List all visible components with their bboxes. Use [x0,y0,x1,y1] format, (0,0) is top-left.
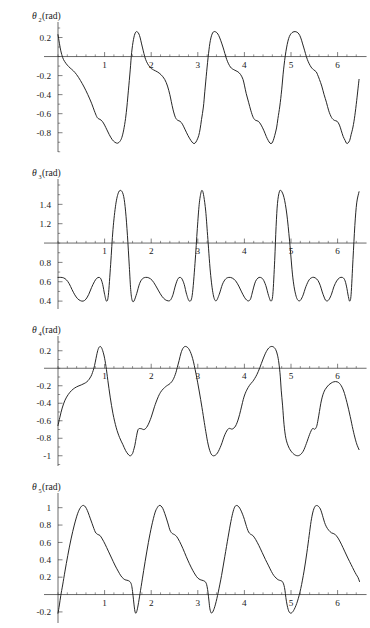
plot-panel-theta5: 123456time(s)10.80.60.40.2-0.2θ5(rad) [0,471,370,628]
y-tick-label: 0.4 [40,555,52,565]
x-tick-label: 6 [335,371,340,381]
y-axis-title-unit: (rad) [42,167,61,179]
x-tick-label: 1 [102,598,107,608]
y-tick-label: -0.6 [36,109,51,119]
x-tick-label: 5 [289,598,294,608]
y-tick-label: -0.2 [36,607,51,617]
y-tick-label: 0.2 [40,572,52,582]
plot-panel-theta4: 123456time(s)0.2-0.2-0.4-0.6-0.8-1θ4(rad… [0,314,370,471]
x-tick-label: 1 [102,246,107,256]
x-tick-label: 5 [289,60,294,70]
x-tick-label: 6 [335,598,340,608]
y-tick-label: 1.4 [40,200,52,210]
y-tick-label: 0.8 [40,258,52,268]
y-tick-label: -0.2 [36,381,51,391]
y-tick-label: -0.6 [36,416,51,426]
x-tick-label: 2 [149,598,154,608]
y-tick-label: -0.8 [36,433,51,443]
y-tick-label: -0.4 [36,90,51,100]
y-tick-label: 0.4 [40,296,52,306]
y-axis-title: θ2(rad) [32,10,61,23]
y-axis-title-symbol: θ [32,167,37,178]
x-tick-label: 6 [335,246,340,256]
y-axis-title-symbol: θ [32,10,37,21]
y-axis-title: θ3(rad) [32,167,61,180]
plot-panel-theta3: 123456time(s)1.41.20.80.60.4θ3(rad) [0,157,370,314]
figure-root: 123456time(s)0.2-0.2-0.4-0.6-0.8θ2(rad) … [0,0,370,628]
x-tick-label: 4 [242,598,247,608]
y-axis-title: θ5(rad) [32,481,61,494]
plot-svg-theta5: 123456time(s)10.80.60.40.2-0.2θ5(rad) [0,471,370,628]
y-axis-title: θ4(rad) [32,324,61,337]
y-axis-title-unit: (rad) [42,10,61,22]
y-tick-label: 0.8 [40,520,52,530]
y-tick-label: 1 [46,503,51,513]
y-tick-label: -0.8 [36,128,51,138]
y-tick-label: 0.6 [40,538,52,548]
x-tick-label: 4 [242,371,247,381]
plot-panel-theta2: 123456time(s)0.2-0.2-0.4-0.6-0.8θ2(rad) [0,0,370,157]
x-tick-label: 1 [102,60,107,70]
y-tick-label: -1 [43,451,51,461]
x-tick-label: 3 [196,60,201,70]
y-axis-title-unit: (rad) [42,481,61,493]
x-tick-label: 3 [196,598,201,608]
y-tick-label: 0.2 [40,33,52,43]
plot-svg-theta2: 123456time(s)0.2-0.2-0.4-0.6-0.8θ2(rad) [0,0,370,157]
y-tick-label: 1.2 [40,219,52,229]
x-tick-label: 2 [149,246,154,256]
plot-svg-theta4: 123456time(s)0.2-0.2-0.4-0.6-0.8-1θ4(rad… [0,314,370,471]
data-curve-theta4 [58,346,359,455]
y-axis-title-unit: (rad) [42,324,61,336]
data-curve-theta2 [58,32,359,144]
x-tick-label: 4 [242,60,247,70]
x-tick-label: 4 [242,246,247,256]
x-tick-label: 6 [335,60,340,70]
y-axis-title-symbol: θ [32,481,37,492]
plot-svg-theta3: 123456time(s)1.41.20.80.60.4θ3(rad) [0,157,370,314]
y-tick-label: -0.2 [36,71,51,81]
y-axis-title-symbol: θ [32,324,37,335]
x-tick-label: 2 [149,371,154,381]
y-tick-label: 0.6 [40,277,52,287]
y-tick-label: -0.4 [36,398,51,408]
x-tick-label: 5 [289,371,294,381]
y-tick-label: 0.2 [40,346,52,356]
